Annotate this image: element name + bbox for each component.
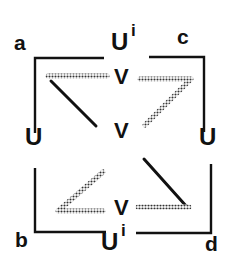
edge-d-bottom-right: [136, 164, 211, 233]
node-v-center: V: [114, 118, 129, 143]
diagonal-center-to-d: [144, 159, 187, 207]
node-bottom-sup: i: [121, 221, 126, 240]
node-top-u-i: U i: [111, 21, 136, 55]
hatched-top-right-z: [140, 79, 191, 125]
node-top-sup: i: [131, 21, 136, 40]
hatched-bottom-left-z: [58, 172, 103, 211]
commutative-diagram: a c b d U i U i U U V V V: [0, 0, 230, 265]
diagonal-a-to-center: [51, 81, 96, 126]
corner-label-c: c: [177, 25, 189, 48]
node-v-bottom: V: [114, 195, 129, 220]
hatched-arrows: [48, 76, 191, 211]
node-top-base: U: [111, 28, 128, 55]
corner-label-a: a: [14, 31, 26, 54]
node-bottom-u-i: U i: [101, 221, 126, 255]
node-right-u: U: [199, 123, 216, 150]
node-v-top: V: [114, 64, 129, 89]
node-left-u: U: [25, 123, 42, 150]
corner-label-b: b: [15, 228, 28, 251]
corner-label-d: d: [205, 232, 218, 255]
